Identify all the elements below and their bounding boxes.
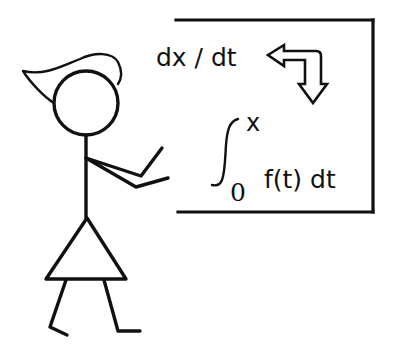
left-leg bbox=[50, 280, 67, 335]
head bbox=[54, 71, 118, 135]
integral-sign-icon bbox=[212, 119, 238, 185]
right-leg bbox=[104, 280, 140, 331]
bent-arrow-icon bbox=[268, 45, 327, 103]
integral-upper-limit: x bbox=[246, 109, 260, 137]
integral-lower-limit: 0 bbox=[230, 178, 246, 207]
integrand: f(t) dt bbox=[264, 165, 336, 194]
diagram-svg: dx / dt x 0 f(t) dt bbox=[0, 0, 396, 353]
derivative-label: dx / dt bbox=[156, 43, 237, 72]
diagram-canvas: dx / dt x 0 f(t) dt bbox=[0, 0, 396, 353]
integral-expression: x 0 f(t) dt bbox=[212, 109, 336, 207]
upper-arm bbox=[86, 148, 162, 176]
skirt bbox=[46, 218, 126, 279]
stick-figure bbox=[23, 54, 168, 335]
